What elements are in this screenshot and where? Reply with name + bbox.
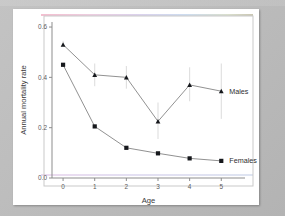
data-point-marker: [93, 124, 97, 128]
y-tick-label: 0.4: [38, 74, 47, 81]
line-chart: 0.00.20.40.6 012345 MalesFemales Age Ann…: [13, 9, 259, 205]
data-point-marker: [124, 146, 128, 150]
x-tick-label: 1: [93, 183, 97, 190]
series-line: [63, 45, 221, 122]
x-axis-title: Age: [142, 196, 156, 205]
y-axis-title: Annual mortality rate: [19, 65, 28, 135]
y-tick-labels: 0.00.20.40.6: [38, 23, 47, 181]
x-tick-label: 5: [219, 183, 223, 190]
data-point-marker: [219, 159, 223, 163]
error-bars: [63, 41, 221, 139]
x-tick-label: 0: [61, 183, 65, 190]
mat-sheen: [0, 0, 285, 6]
x-tick-label: 2: [125, 183, 129, 190]
data-point-marker: [156, 151, 160, 155]
photo-mat: 0.00.20.40.6 012345 MalesFemales Age Ann…: [0, 0, 285, 216]
series-label: Females: [229, 156, 257, 165]
chart-plot-area: 0.00.20.40.6 012345 MalesFemales Age Ann…: [13, 9, 259, 205]
data-point-marker: [61, 42, 66, 46]
data-point-marker: [187, 83, 192, 87]
y-tick-label: 0.2: [38, 124, 47, 131]
series-markers: [61, 42, 224, 163]
series-lines: [63, 45, 221, 161]
figure-card: 0.00.20.40.6 012345 MalesFemales Age Ann…: [13, 9, 259, 205]
x-tick-label: 3: [156, 183, 160, 190]
series-line: [63, 65, 221, 161]
x-tick-label: 4: [188, 183, 192, 190]
data-point-marker: [61, 63, 65, 67]
y-tick-label: 0.6: [38, 23, 47, 30]
series-label: Males: [229, 87, 249, 96]
y-tick-label: 0.0: [38, 174, 47, 181]
data-point-marker: [188, 156, 192, 160]
